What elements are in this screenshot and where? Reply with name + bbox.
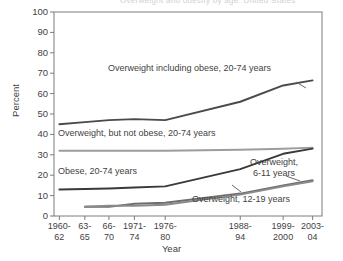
series-line-1 <box>59 148 312 151</box>
series-label-overweight-12-19: Overweight, 12-19 years <box>192 194 290 205</box>
series-line-0 <box>59 80 312 124</box>
chart-figure: Overweight and obesity by age: United St… <box>0 0 343 261</box>
leader-line-overweight-12-19 <box>232 185 241 192</box>
series-label-obese-adults: Obese, 20-74 years <box>58 166 137 177</box>
series-label-overweight-not-obese: Overweight, but not obese, 20-74 years <box>58 128 216 139</box>
series-label-overweight-including-obese: Overweight including obese, 20-74 years <box>108 63 271 74</box>
series-label-overweight-6-11: Overweight, 6-11 years <box>250 157 298 178</box>
